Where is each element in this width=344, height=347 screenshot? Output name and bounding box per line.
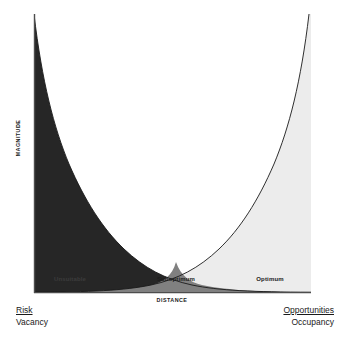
endpoint-left-primary: Risk: [16, 305, 48, 317]
band-label-optimum: Optimum: [234, 276, 306, 282]
endpoint-left: Risk Vacancy: [16, 305, 48, 328]
endpoint-right: Opportunities Occupancy: [283, 305, 334, 328]
endpoint-left-secondary: Vacancy: [16, 317, 48, 329]
endpoint-right-primary: Opportunities: [283, 305, 334, 317]
band-label-suboptimum: Suboptimum: [140, 276, 212, 282]
chart-plot-area: [0, 0, 344, 347]
endpoint-right-secondary: Occupancy: [283, 317, 334, 329]
x-axis-title: DISTANCE: [0, 297, 344, 303]
chart-figure: MAGNITUDE DISTANCE Unsuitable Suboptimum…: [0, 0, 344, 347]
y-axis-title: MAGNITUDE: [15, 98, 21, 178]
band-label-unsuitable: Unsuitable: [34, 276, 106, 282]
